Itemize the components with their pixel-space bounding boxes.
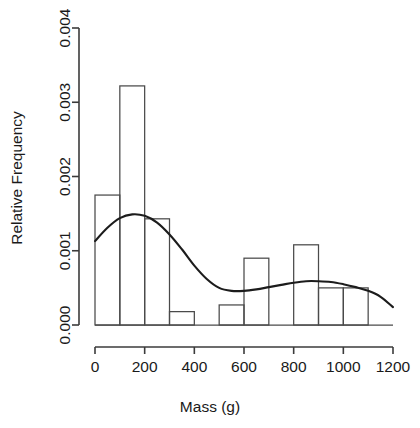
histogram-bar	[145, 219, 170, 325]
x-axis-title: Mass (g)	[180, 398, 240, 415]
y-axis-ticks: 0.0000.0010.0020.0030.004	[56, 8, 79, 344]
histogram-bar	[343, 288, 368, 325]
chart-canvas: 0.0000.0010.0020.0030.004 02004006008001…	[0, 0, 420, 428]
x-axis-tick-label: 600	[231, 358, 257, 375]
y-axis-tick-label: 0.001	[56, 231, 73, 270]
x-axis-tick-label: 1200	[376, 358, 411, 375]
y-axis-title: Relative Frequency	[8, 111, 25, 245]
y-axis-tick-label: 0.004	[56, 8, 73, 47]
x-axis-tick-label: 400	[181, 358, 207, 375]
x-axis-tick-label: 800	[281, 358, 307, 375]
histogram-bar	[219, 305, 244, 325]
histogram-bars	[95, 86, 393, 325]
y-axis-tick-label: 0.002	[56, 157, 73, 196]
histogram-bar	[120, 86, 145, 325]
histogram-bar	[294, 245, 319, 325]
histogram-figure: 0.0000.0010.0020.0030.004 02004006008001…	[0, 0, 420, 428]
x-axis-tick-label: 1000	[326, 358, 361, 375]
histogram-bar	[319, 288, 344, 325]
y-axis-tick-label: 0.000	[56, 305, 73, 344]
x-axis-ticks: 020040060080010001200	[91, 347, 411, 375]
histogram-bar	[95, 195, 120, 325]
x-axis-tick-label: 200	[132, 358, 158, 375]
histogram-bar	[244, 258, 269, 325]
x-axis-tick-label: 0	[91, 358, 100, 375]
x-axis: 020040060080010001200	[91, 347, 411, 375]
histogram-bar	[170, 312, 195, 325]
y-axis-tick-label: 0.003	[56, 83, 73, 122]
y-axis: 0.0000.0010.0020.0030.004	[56, 8, 79, 344]
